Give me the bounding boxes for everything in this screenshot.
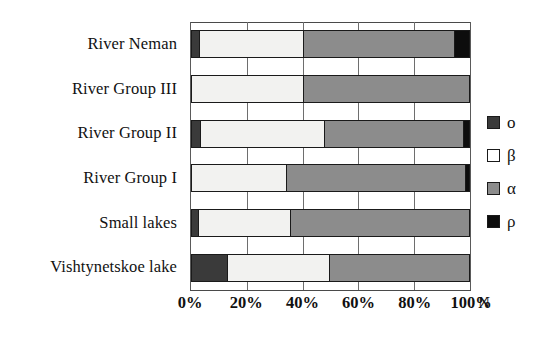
legend: oβαρ	[487, 113, 539, 231]
legend-item-o[interactable]: o	[487, 113, 539, 131]
bar-segment-ρ[interactable]	[454, 31, 469, 57]
bar-segment-α[interactable]	[303, 31, 454, 57]
legend-swatch-β	[487, 149, 500, 162]
x-axis-line	[190, 290, 471, 291]
bar-segment-β[interactable]	[200, 121, 323, 147]
bar-segment-β[interactable]	[192, 76, 303, 102]
legend-item-β[interactable]: β	[487, 146, 539, 164]
legend-swatch-α	[487, 182, 500, 195]
legend-label: o	[507, 114, 516, 131]
bar-segment-β[interactable]	[192, 165, 286, 191]
legend-label: α	[507, 180, 516, 197]
y-axis-label-river-group-i: River Group I	[0, 156, 184, 201]
stacked-bar[interactable]	[191, 254, 470, 282]
bar-slot	[191, 67, 470, 112]
legend-item-ρ[interactable]: ρ	[487, 213, 539, 231]
stacked-bar[interactable]	[191, 164, 470, 192]
bar-slot	[191, 22, 470, 67]
bar-segment-β[interactable]	[227, 255, 329, 281]
bar-segment-β[interactable]	[199, 31, 303, 57]
plot-area	[190, 22, 471, 290]
x-tick-label: 80%	[398, 293, 431, 313]
bar-segment-o[interactable]	[192, 121, 200, 147]
y-axis-label-river-group-ii: River Group II	[0, 111, 184, 156]
y-axis-label-river-group-iii: River Group III	[0, 67, 184, 112]
bar-segment-o[interactable]	[192, 255, 227, 281]
bar-slot	[191, 156, 470, 201]
legend-label: ρ	[507, 213, 515, 230]
bar-slot	[191, 111, 470, 156]
bar-group	[191, 22, 470, 290]
x-axis-tick-labels: 0%20%40%60%80%100%	[190, 293, 471, 319]
y-axis-label-small-lakes: Small lakes	[0, 201, 184, 246]
bar-segment-α[interactable]	[329, 255, 469, 281]
bar-segment-ρ[interactable]	[463, 121, 469, 147]
stacked-bar-chart: River Neman River Group III River Group …	[0, 0, 544, 339]
bar-segment-α[interactable]	[290, 210, 469, 236]
stacked-bar[interactable]	[191, 120, 470, 148]
bar-segment-β[interactable]	[198, 210, 291, 236]
x-axis-title: N	[478, 293, 490, 313]
x-tick-label: 20%	[230, 293, 263, 313]
stacked-bar[interactable]	[191, 75, 470, 103]
bar-segment-α[interactable]	[303, 76, 469, 102]
legend-label: β	[507, 147, 516, 164]
legend-swatch-ρ	[487, 215, 500, 228]
bar-segment-α[interactable]	[286, 165, 465, 191]
bar-slot	[191, 245, 470, 290]
bar-segment-o[interactable]	[192, 31, 199, 57]
x-tick-label: 0%	[178, 293, 203, 313]
stacked-bar[interactable]	[191, 209, 470, 237]
bar-segment-ρ[interactable]	[465, 165, 469, 191]
bar-slot	[191, 201, 470, 246]
y-axis-label-river-neman: River Neman	[0, 22, 184, 67]
y-axis-label-vishtynetskoe-lake: Vishtynetskoe lake	[0, 245, 184, 290]
stacked-bar[interactable]	[191, 30, 470, 58]
legend-swatch-o	[487, 116, 500, 129]
x-tick-label: 40%	[286, 293, 319, 313]
x-tick-label: 60%	[342, 293, 375, 313]
bar-segment-α[interactable]	[324, 121, 464, 147]
legend-item-α[interactable]: α	[487, 180, 539, 198]
y-axis-category-labels: River Neman River Group III River Group …	[0, 22, 184, 290]
